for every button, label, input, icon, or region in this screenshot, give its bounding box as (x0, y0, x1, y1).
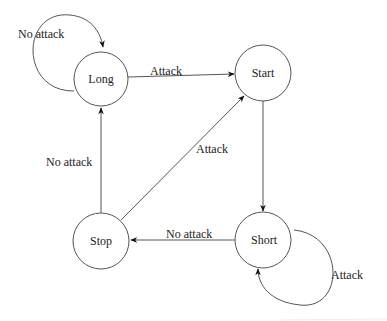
state-short: Short (235, 212, 291, 268)
state-long-label: Long (88, 72, 113, 86)
label-long-self: No attack (18, 27, 64, 41)
label-short-to-stop: No attack (166, 227, 212, 241)
label-long-to-start: Attack (150, 64, 182, 78)
state-short-label: Short (251, 233, 278, 247)
label-short-self: Attack (331, 268, 363, 282)
label-stop-to-start: Attack (196, 142, 228, 156)
label-stop-to-long: No attack (46, 155, 92, 169)
edge-stop-to-start (121, 96, 244, 220)
state-stop-label: Stop (90, 234, 112, 248)
state-diagram: Long Start Stop Short No attack Attack N… (0, 0, 387, 321)
state-long: Long (74, 52, 128, 106)
state-start: Start (235, 45, 291, 101)
divider (280, 319, 387, 320)
state-stop: Stop (73, 213, 129, 269)
state-start-label: Start (252, 66, 275, 80)
